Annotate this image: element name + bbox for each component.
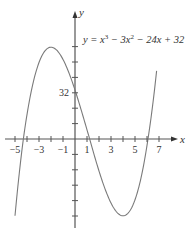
x-tick-label: 3 — [109, 144, 114, 155]
x-axis-arrow-icon — [171, 137, 178, 142]
cubic-curve — [15, 47, 157, 216]
x-axis-label: x — [179, 133, 185, 145]
eq-prefix: y = x — [82, 34, 105, 45]
eq-suffix: − 24x + 32 — [134, 34, 185, 45]
y-axis-arrow-icon — [73, 11, 78, 18]
x-tick-label: −1 — [58, 144, 69, 155]
eq-mid: − 3x — [108, 34, 131, 45]
equation-label: y = x3 − 3x2 − 24x + 32 — [82, 33, 185, 45]
tick-labels: −5−3−1135732 — [10, 87, 162, 155]
y-axis-label: y — [78, 6, 84, 18]
x-tick-label: 5 — [133, 144, 138, 155]
x-tick-label: −3 — [34, 144, 45, 155]
cubic-function-graph: −5−3−1135732 x y y = x3 − 3x2 − 24x + 32 — [0, 0, 188, 230]
x-tick-label: 7 — [157, 144, 162, 155]
x-tick-label: 1 — [85, 144, 90, 155]
x-tick-label: −5 — [10, 144, 21, 155]
y-tick-label: 32 — [59, 87, 69, 98]
